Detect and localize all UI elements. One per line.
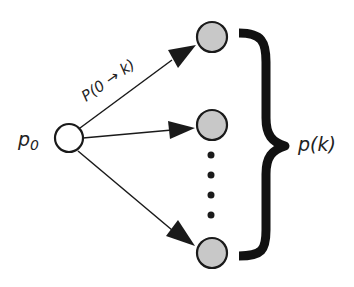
arrowhead-icon <box>168 45 196 68</box>
curly-brace-icon <box>239 33 285 256</box>
target-node-middle <box>197 110 227 140</box>
source-label: p0 <box>17 128 39 153</box>
branching-diagram: p0 P(0 → k) p(k) <box>0 0 354 287</box>
source-node <box>55 124 83 152</box>
group-probability-label: p(k) <box>297 133 336 155</box>
edge-to-bottom <box>78 151 195 246</box>
arrowhead-icon <box>166 220 195 246</box>
target-node-bottom <box>197 238 227 268</box>
edge-probability-label: P(0 → k) <box>78 55 138 105</box>
edge-to-middle <box>83 121 195 139</box>
ellipsis-dots <box>208 152 215 219</box>
target-node-top <box>197 22 227 52</box>
arrowhead-icon <box>168 121 195 139</box>
